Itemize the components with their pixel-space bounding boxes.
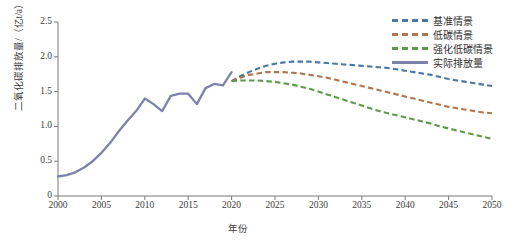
x-tick-label: 2005 [81, 200, 121, 210]
chart-legend: 基准情景低碳情景强化低碳情景实际排放量 [392, 13, 514, 69]
x-axis-title-text: 年份 [228, 221, 248, 235]
x-tick-label: 2040 [385, 200, 425, 210]
x-tick-label: 2000 [38, 200, 78, 210]
legend-item[interactable]: 实际排放量 [392, 55, 514, 69]
legend-item-label: 低碳情景 [433, 27, 473, 42]
x-tick-label: 2020 [212, 200, 252, 210]
legend-item[interactable]: 强化低碳情景 [392, 41, 514, 55]
series-line-actual [58, 72, 232, 176]
x-axis-title: 年份 [0, 221, 514, 235]
x-tick-label: 2045 [429, 200, 469, 210]
x-tick-label: 2010 [125, 200, 165, 210]
legend-item-label: 强化低碳情景 [433, 41, 493, 56]
x-tick-label: 2035 [342, 200, 382, 210]
legend-item[interactable]: 基准情景 [392, 13, 514, 27]
series-line-lowcarbon [232, 72, 492, 113]
emission-scenario-chart: 二氧化碳排放量/（亿t/a） 00.51.01.52.02.5 20002005… [0, 0, 514, 242]
x-tick-label: 2015 [168, 200, 208, 210]
x-tick-label: 2025 [255, 200, 295, 210]
legend-item-label: 实际排放量 [433, 55, 483, 70]
x-tick-label: 2030 [298, 200, 338, 210]
legend-item-label: 基准情景 [433, 13, 473, 28]
legend-item[interactable]: 低碳情景 [392, 27, 514, 41]
x-tick-label: 2050 [472, 200, 512, 210]
series-line-enhanced [232, 80, 492, 138]
